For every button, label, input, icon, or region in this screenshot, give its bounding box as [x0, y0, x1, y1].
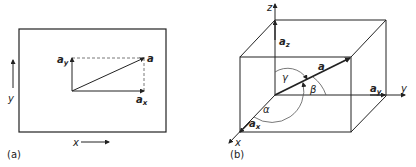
box-edge-top-left — [240, 20, 275, 57]
component-y-label: ay — [57, 54, 69, 67]
axis-z-label: z — [266, 2, 273, 13]
vector-a-arrow — [72, 58, 144, 91]
axis-x-label: x — [72, 137, 79, 148]
box-edge-top-right — [351, 20, 386, 57]
angle-gamma-label: γ — [282, 72, 289, 83]
panel-a-caption: (a) — [7, 149, 21, 160]
angle-gamma-arc — [275, 68, 307, 79]
panel-a: a ay ax y x (a) — [7, 29, 166, 160]
angle-alpha-arc — [254, 83, 304, 122]
vector-diagram: a ay ax y x (a) z y x — [0, 0, 416, 167]
vector-a-label: a — [147, 53, 154, 64]
panel-b: z y x a az ay ax γ β α (b) — [229, 2, 408, 160]
axis-y-label: y — [7, 93, 15, 104]
angle-alpha-label: α — [263, 104, 270, 115]
component-x-label: ax — [136, 94, 148, 107]
box-edge-bottom-right — [351, 96, 386, 132]
vector-a-label-3d: a — [318, 61, 325, 72]
component-y-label-3d: ay — [370, 83, 382, 96]
panel-b-caption: (b) — [230, 149, 244, 160]
axis-x-label-3d: x — [234, 137, 241, 148]
axis-y-label-3d: y — [400, 83, 408, 94]
angle-beta-label: β — [309, 84, 317, 95]
component-z-label: az — [279, 36, 291, 49]
